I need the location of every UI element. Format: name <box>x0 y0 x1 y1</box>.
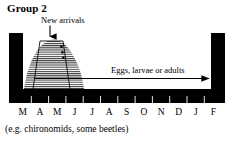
month-label: M <box>49 106 66 120</box>
month-axis: M A M J J A S O N D J F <box>14 106 222 120</box>
month-label: J <box>66 106 83 120</box>
month-label: A <box>101 106 118 120</box>
month-label: N <box>153 106 170 120</box>
month-label: J <box>187 106 204 120</box>
month-label: A <box>31 106 48 120</box>
new-arrivals-mound <box>18 34 90 92</box>
month-label: O <box>135 106 152 120</box>
phenology-figure: Group 2 New arrivals Eggs, larvae or adu… <box>0 0 244 141</box>
month-label: F <box>205 106 222 120</box>
figure-caption: (e.g. chironomids, some beetles) <box>5 124 128 134</box>
month-label: M <box>14 106 31 120</box>
month-label: D <box>170 106 187 120</box>
month-label: S <box>118 106 135 120</box>
month-label: J <box>83 106 100 120</box>
